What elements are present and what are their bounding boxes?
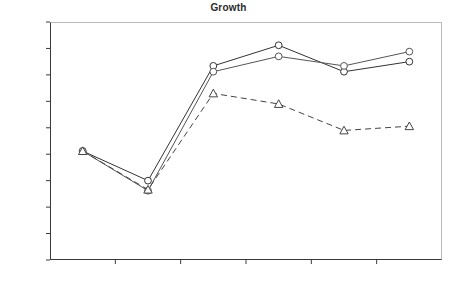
triangle-marker: [209, 89, 217, 97]
circle-marker: [275, 42, 282, 49]
circle-marker: [406, 48, 413, 55]
circle-marker: [341, 62, 348, 69]
circle-marker: [210, 68, 217, 75]
series-3-group: [78, 89, 413, 193]
circle-marker: [275, 53, 282, 60]
triangle-marker: [405, 122, 413, 130]
series-1-line: [83, 45, 410, 180]
circle-marker: [406, 58, 413, 65]
circle-marker: [145, 177, 152, 184]
series-2-line: [83, 52, 410, 191]
series-1-group: [79, 42, 412, 184]
series-3-line: [83, 93, 410, 189]
chart-plot-svg: [0, 0, 457, 284]
growth-line-chart: Growth: [0, 0, 457, 284]
